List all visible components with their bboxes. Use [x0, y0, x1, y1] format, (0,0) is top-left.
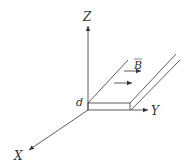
- field-label: B: [133, 59, 142, 72]
- slab-left-edge: [88, 60, 128, 103]
- x-axis-label: X: [13, 149, 23, 163]
- y-axis-label: Y: [151, 104, 160, 118]
- z-axis: Z: [82, 10, 92, 110]
- slab-front-face: [88, 103, 130, 110]
- z-axis-label: Z: [82, 10, 92, 24]
- diagram-canvas: Z Y X d B: [0, 0, 190, 168]
- x-axis: X: [13, 110, 88, 163]
- thickness-label: d: [76, 96, 83, 109]
